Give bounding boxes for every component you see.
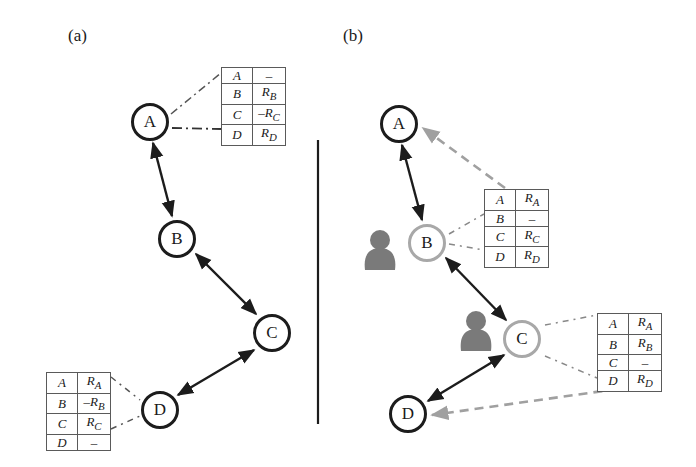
table-row: ARA [485,190,549,211]
table-connector [449,244,484,250]
route-value: RA [78,373,111,394]
table-row: CRC [47,414,111,435]
panel-a-label: (a) [68,26,87,46]
table-connector [449,214,484,234]
table-connector [545,315,597,325]
forward-arrow-to-a [423,128,505,188]
table-row: BRB [598,334,662,355]
node-a-right: A [380,105,418,143]
node-b-left: B [158,220,196,258]
routing-table-c-right: ARA BRB C– DRD [597,313,662,392]
table-connector [171,73,221,114]
user-icon-b [362,228,398,272]
table-row: ARA [598,314,662,335]
routing-table-a-left: A– BRB C–RC DRD [221,67,286,146]
table-row: CRC [485,226,549,247]
node-c-right-compromised: C [503,320,541,358]
route-value: RB [253,84,286,105]
table-row: A– [222,68,286,84]
routing-table-d-left: ARA B–RB CRC D– [46,372,111,451]
route-value: –RC [253,104,286,125]
route-value: RC [78,414,111,435]
route-value: RD [253,125,286,146]
table-connector [111,416,140,429]
table-row: B– [485,210,549,226]
route-value: – [78,434,111,450]
route-value: RA [516,190,549,211]
table-row: C–RC [222,104,286,125]
table-row: DRD [485,247,549,268]
table-connector [545,356,597,378]
route-value: –RB [78,393,111,414]
route-value: – [253,68,286,84]
route-value: – [629,355,662,371]
node-c-left: C [253,314,291,352]
link-c-d-left [178,350,254,395]
table-connector [111,377,140,400]
table-row: C– [598,355,662,371]
route-value: – [516,210,549,226]
table-row: DRD [222,125,286,146]
table-row: B–RB [47,393,111,414]
user-icon-c [458,309,494,353]
link-c-d-right [428,355,504,401]
node-b-right-compromised: B [408,224,446,262]
link-a-b-left [153,143,172,216]
route-value: RA [629,314,662,335]
routing-table-b-right: ARA B– CRC DRD [484,189,549,268]
table-row: BRB [222,84,286,105]
node-d-left: D [141,391,179,429]
table-row: D– [47,434,111,450]
table-connector [172,128,221,129]
node-a-left: A [131,103,169,141]
table-row: DRD [598,371,662,392]
link-b-c-left [196,254,256,314]
route-value: RD [516,247,549,268]
panel-b-label: (b) [343,26,363,46]
node-d-right: D [389,395,427,433]
route-value: RD [629,371,662,392]
route-value: RB [629,334,662,355]
table-row: ARA [47,373,111,394]
route-value: RC [516,226,549,247]
link-a-b-right [402,145,422,220]
